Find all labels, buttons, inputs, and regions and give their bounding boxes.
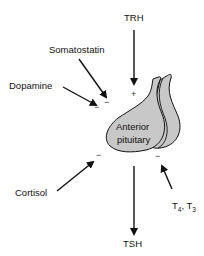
cortisol-label: Cortisol [15,187,47,198]
somatostatin-minus-sign: − [104,97,109,107]
dopamine-minus-sign: − [94,102,99,112]
dopamine-label: Dopamine [9,80,52,91]
somatostatin-arrow [79,59,106,97]
gland-label-line1: Anterior [116,121,149,132]
thyroid-hormone-arrow [162,166,172,189]
dopamine-arrow [63,87,96,105]
thyroid-hormone-label: T4, T3 [172,200,196,213]
cortisol-minus-sign: − [96,150,101,160]
somatostatin-label: Somatostatin [49,44,104,55]
trh-plus-sign: + [131,89,136,99]
diagram-canvas [0,0,204,256]
thyroid-minus-sign: − [155,151,160,161]
gland-label-line2: pituitary [117,134,150,145]
tsh-label: TSH [123,238,142,249]
cortisol-arrow [57,162,93,191]
trh-label: TRH [124,12,144,23]
